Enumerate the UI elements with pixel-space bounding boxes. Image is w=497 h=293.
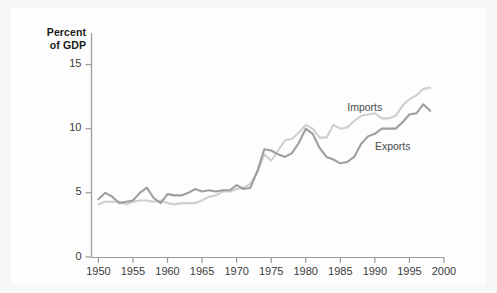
y-tick-label: 5 xyxy=(52,185,82,197)
x-tick-label: 2000 xyxy=(424,265,464,277)
series-label-imports: Imports xyxy=(347,101,382,113)
y-tick-label: 10 xyxy=(52,121,82,133)
y-axis-title: Percentof GDP xyxy=(30,26,86,51)
y-tick-label: 0 xyxy=(52,250,82,262)
series-label-exports: Exports xyxy=(375,140,411,152)
y-axis-title-line1: Percent xyxy=(47,26,86,38)
figure-container: Percentof GDP 051015 1950195519601965197… xyxy=(0,0,497,293)
y-axis-title-line2: of GDP xyxy=(50,39,86,51)
y-tick-marks xyxy=(86,65,92,258)
y-tick-label: 15 xyxy=(52,57,82,69)
